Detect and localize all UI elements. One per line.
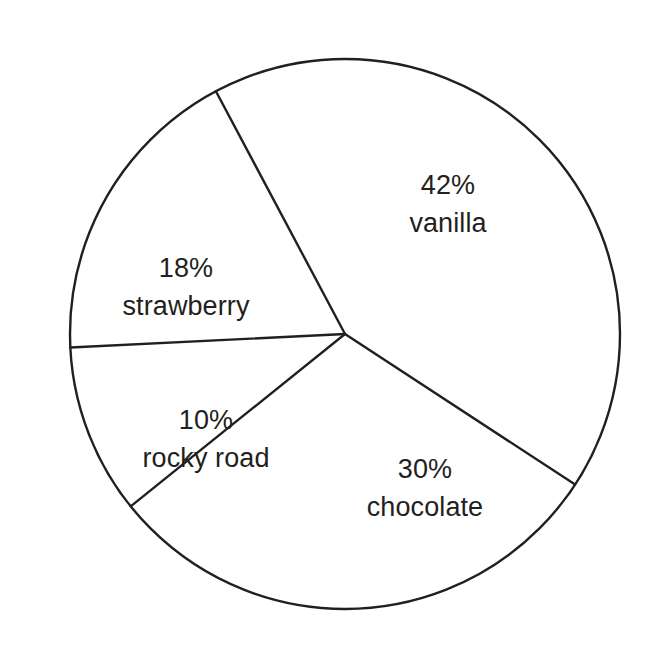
slice-percent-vanilla: 42% — [409, 167, 486, 205]
pie-chart: 42% vanilla 18% strawberry 10% rocky roa… — [0, 0, 666, 655]
slice-percent-rocky-road: 10% — [142, 402, 269, 440]
slice-percent-chocolate: 30% — [367, 451, 483, 489]
slice-flavor-rocky-road: rocky road — [142, 440, 269, 478]
slice-flavor-vanilla: vanilla — [409, 205, 486, 243]
slice-label-strawberry: 18% strawberry — [122, 250, 249, 326]
slice-label-rocky-road: 10% rocky road — [142, 402, 269, 478]
slice-percent-strawberry: 18% — [122, 250, 249, 288]
slice-label-vanilla: 42% vanilla — [409, 167, 486, 243]
slice-flavor-strawberry: strawberry — [122, 288, 249, 326]
slice-flavor-chocolate: chocolate — [367, 489, 483, 527]
slice-label-chocolate: 30% chocolate — [367, 451, 483, 527]
pie-chart-svg — [0, 0, 666, 655]
